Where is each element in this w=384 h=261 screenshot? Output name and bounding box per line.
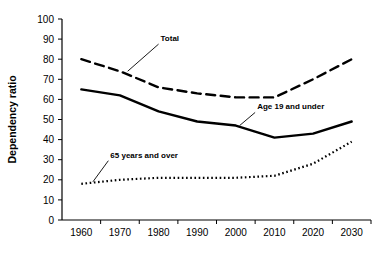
y-axis-title: Dependency ratio (6, 75, 18, 163)
y-tick-label: 20 (43, 174, 55, 185)
x-tick-label: 2010 (263, 227, 286, 238)
annotation-label: Total (161, 34, 180, 43)
x-tick-label: 1970 (109, 227, 132, 238)
y-tick-label: 60 (43, 94, 55, 105)
x-tick-label: 2020 (302, 227, 325, 238)
x-tick-label: 2000 (225, 227, 248, 238)
x-tick-label: 2030 (341, 227, 364, 238)
annotation-label: 65 years and over (110, 151, 178, 160)
y-tick-label: 10 (43, 195, 55, 206)
x-tick-label: 1990 (186, 227, 209, 238)
y-tick-label: 30 (43, 154, 55, 165)
chart-figure: 0102030405060708090100 19601970198019902… (0, 0, 384, 261)
x-tick-label: 1980 (147, 227, 170, 238)
y-tick-label: 100 (37, 14, 54, 25)
annotation-label: Age 19 and under (257, 102, 324, 111)
y-tick-label: 40 (43, 134, 55, 145)
x-tick-label: 1960 (70, 227, 93, 238)
y-tick-label: 0 (48, 215, 54, 226)
y-tick-label: 70 (43, 74, 55, 85)
y-tick-label: 50 (43, 114, 55, 125)
dependency-ratio-line-chart: 0102030405060708090100 19601970198019902… (0, 0, 384, 261)
y-tick-label: 80 (43, 54, 55, 65)
y-axis-title-text: Dependency ratio (6, 75, 18, 163)
y-tick-label: 90 (43, 34, 55, 45)
